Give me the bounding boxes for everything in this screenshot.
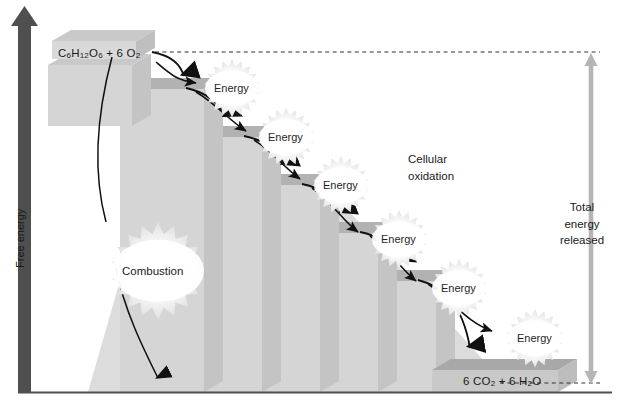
energy-label-6: Energy — [517, 332, 552, 346]
diagram-canvas — [0, 0, 619, 415]
free-energy-axis-label: Free energy — [14, 209, 28, 268]
product-plus-h: + 6 H — [495, 375, 527, 387]
total-energy-line-1: Total — [551, 199, 613, 216]
energy-label-5: Energy — [441, 282, 476, 296]
total-energy-line-2: energy — [551, 216, 613, 233]
formula-h: H — [71, 47, 80, 59]
cellular-oxidation-line-2: oxidation — [408, 168, 488, 185]
formula-o: O — [89, 47, 98, 59]
product-formula-label: 6 CO2 + 6 H2O — [463, 374, 541, 389]
energy-label-1: Energy — [214, 82, 249, 96]
product-o: O — [532, 375, 541, 387]
energy-label-3: Energy — [323, 179, 358, 193]
cellular-oxidation-label: Cellular oxidation — [408, 151, 488, 184]
cellular-oxidation-line-1: Cellular — [408, 151, 488, 168]
combustion-label: Combustion — [122, 264, 183, 278]
total-energy-released-label: Total energy released — [551, 199, 613, 249]
reactant-formula-label: C6H12O6 + 6 O2 — [58, 46, 140, 61]
energy-label-2: Energy — [268, 131, 303, 145]
formula-h-sub: 12 — [80, 51, 89, 60]
total-energy-line-3: released — [551, 232, 613, 249]
energy-label-4: Energy — [381, 233, 416, 247]
energy-diagram-figure: Free energy C6H12O6 + 6 O2 6 CO2 + 6 H2O… — [0, 0, 619, 415]
product-co: 6 CO — [463, 375, 491, 387]
formula-c: C — [58, 47, 67, 59]
formula-plus-o2: + 6 O — [103, 47, 136, 59]
formula-o2-sub: 2 — [136, 51, 141, 60]
free-energy-axis-arrow — [11, 6, 38, 392]
